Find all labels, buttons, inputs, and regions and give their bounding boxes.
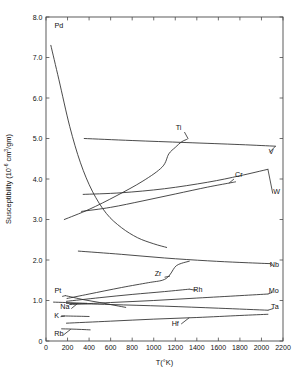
series-label-k: K — [54, 311, 59, 320]
series-label-pt: Pt — [54, 286, 61, 295]
curve-nb — [78, 251, 270, 264]
curve-zr — [67, 261, 189, 298]
leader-Hf — [181, 318, 189, 324]
x-tick-label: 2200 — [275, 344, 291, 351]
y-tick-label: 6.0 — [33, 95, 43, 102]
y-tick-label: 0 — [38, 338, 42, 345]
axis-titles: T(°K)Susceptibility (10-6 cm3/gm) — [3, 134, 173, 366]
curve-cr — [82, 182, 236, 212]
x-tick-label: 800 — [126, 344, 138, 351]
series-label-na: Na — [60, 302, 69, 311]
y-axis-tick-labels: 01.02.03.04.05.06.07.08.0 — [33, 14, 43, 345]
series-label-rh: Rh — [193, 285, 202, 294]
curve-ta — [66, 303, 267, 310]
series-label-pd: Pd — [55, 21, 64, 30]
x-tick-label: 600 — [105, 344, 117, 351]
y-tick-label: 1.0 — [33, 297, 43, 304]
series-labels: PdVTiCrWNbZrRhMoTaHfPtNaKRb — [54, 21, 280, 338]
susceptibility-vs-temperature-chart: 0200400600800100012001400160018002000220… — [0, 0, 301, 378]
series-label-ti: Ti — [176, 123, 182, 132]
leader-W — [268, 169, 273, 193]
curve-v — [84, 139, 275, 147]
curve-ti — [64, 139, 187, 219]
series-label-nb: Nb — [270, 260, 279, 269]
data-series-curves — [51, 45, 276, 330]
series-label-mo: Mo — [269, 286, 279, 295]
x-tick-label: 2000 — [254, 344, 270, 351]
curve-hf — [66, 314, 267, 323]
y-axis-title: Susceptibility (10-6 cm3/gm) — [3, 134, 13, 224]
x-tick-label: 400 — [83, 344, 95, 351]
curve-rb — [62, 329, 91, 330]
x-tick-label: 1400 — [189, 344, 205, 351]
x-tick-label: 0 — [44, 344, 48, 351]
x-axis-tick-labels: 0200400600800100012001400160018002000220… — [44, 344, 291, 351]
leader-Zr — [165, 276, 170, 277]
chart-page: 0200400600800100012001400160018002000220… — [0, 0, 301, 378]
series-label-w: W — [273, 187, 280, 196]
series-label-rb: Rb — [54, 329, 63, 338]
curve-mo — [70, 294, 268, 305]
curve-k — [62, 316, 89, 317]
curve-pd — [51, 45, 167, 247]
y-tick-label: 2.0 — [33, 257, 43, 264]
x-tick-label: 1200 — [167, 344, 183, 351]
plot-frame — [46, 17, 283, 341]
leader-Ti — [184, 132, 188, 139]
y-axis-ticks — [46, 17, 283, 341]
y-tick-label: 5.0 — [33, 135, 43, 142]
x-tick-label: 200 — [62, 344, 74, 351]
series-label-hf: Hf — [172, 319, 179, 328]
x-axis-ticks — [46, 17, 283, 341]
leader-K — [61, 316, 65, 317]
y-tick-label: 7.0 — [33, 54, 43, 61]
x-tick-label: 1600 — [211, 344, 227, 351]
series-label-cr: Cr — [235, 170, 243, 179]
x-axis-title: T(°K) — [156, 358, 173, 367]
label-leader-lines — [61, 132, 276, 335]
y-tick-label: 4.0 — [33, 176, 43, 183]
series-label-v: V — [269, 147, 274, 156]
leader-Rb — [63, 329, 71, 335]
x-tick-label: 1800 — [232, 344, 248, 351]
leader-Pt — [62, 296, 65, 297]
y-tick-label: 8.0 — [33, 14, 43, 21]
series-label-ta: Ta — [271, 302, 279, 311]
x-tick-label: 1000 — [146, 344, 162, 351]
series-label-zr: Zr — [155, 269, 162, 278]
y-tick-label: 3.0 — [33, 216, 43, 223]
